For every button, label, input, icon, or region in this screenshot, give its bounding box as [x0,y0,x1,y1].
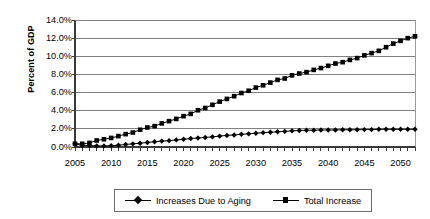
legend-label: Increases Due to Aging [156,196,251,206]
chart-legend: Increases Due to Aging Total Increase [114,189,372,212]
legend-item-total-increase: Total Increase [273,196,361,206]
square-marker-icon [273,196,299,206]
x-axis-tick-label: 2020 [164,158,204,168]
x-axis-tick-label: 2040 [308,158,348,168]
diamond-marker-icon [125,196,151,206]
legend-label: Total Increase [304,196,361,206]
x-axis-tick-label: 2025 [200,158,240,168]
x-axis-tick-labels: 2005201020152020202520302035204020452050 [0,0,430,219]
x-axis-tick-label: 2015 [127,158,167,168]
x-axis-tick-label: 2010 [91,158,131,168]
chart-figure: Percent of GDP 0.0%2.0%4.0%6.0%8.0%10.0%… [0,0,430,219]
x-axis-tick-label: 2045 [344,158,384,168]
x-axis-tick-label: 2005 [55,158,95,168]
x-axis-tick-label: 2035 [272,158,312,168]
legend-item-increases-due-to-aging: Increases Due to Aging [125,196,251,206]
x-axis-tick-label: 2030 [236,158,276,168]
x-axis-tick-label: 2050 [381,158,421,168]
